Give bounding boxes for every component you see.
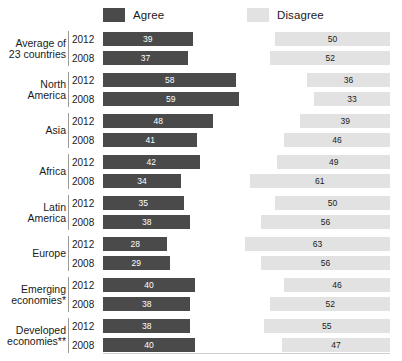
row-year-label: 2012: [72, 194, 98, 213]
row-year-label: 2012: [72, 112, 98, 131]
bar-agree: 48: [103, 114, 213, 128]
row-year-label: 2008: [72, 131, 98, 150]
bar-disagree: 50: [275, 32, 390, 46]
row-year-label: 2008: [72, 295, 98, 314]
row-year-label: 2012: [72, 276, 98, 295]
row-year-label: 2012: [72, 30, 98, 49]
category-label: Africa: [0, 166, 66, 178]
row-year-label: 2008: [72, 254, 98, 273]
category-divider: [68, 113, 69, 148]
category-divider: [68, 236, 69, 271]
bar-agree: 29: [103, 256, 170, 270]
bar-disagree: 36: [307, 73, 390, 87]
bar-agree: 35: [103, 196, 184, 210]
category-divider: [68, 277, 69, 312]
bar-disagree: 52: [270, 297, 390, 311]
bar-disagree: 46: [284, 133, 390, 147]
legend-swatch-disagree-icon: [247, 8, 269, 22]
row-year-label: 2008: [72, 213, 98, 232]
legend-label-agree: Agree: [133, 8, 164, 22]
bar-agree: 38: [103, 297, 190, 311]
bar-agree: 58: [103, 73, 236, 87]
bar-agree: 59: [103, 92, 239, 106]
category-label: North America: [0, 79, 66, 102]
category-divider: [68, 318, 69, 353]
bar-disagree: 55: [264, 319, 391, 333]
bar-disagree: 46: [284, 278, 390, 292]
category-label: Asia: [0, 125, 66, 137]
bar-agree: 28: [103, 237, 167, 251]
bar-agree: 34: [103, 174, 181, 188]
category-divider: [68, 195, 69, 230]
legend-item-disagree: Disagree: [247, 8, 324, 22]
row-year-label: 2008: [72, 336, 98, 355]
bar-disagree: 56: [261, 256, 390, 270]
bar-agree: 40: [103, 338, 195, 352]
bar-agree: 40: [103, 278, 195, 292]
bar-disagree: 56: [261, 215, 390, 229]
legend-label-disagree: Disagree: [277, 8, 324, 22]
bar-disagree: 50: [275, 196, 390, 210]
bar-agree: 41: [103, 133, 197, 147]
bar-agree: 37: [103, 51, 188, 65]
row-year-label: 2012: [72, 153, 98, 172]
bar-disagree: 39: [300, 114, 390, 128]
chart-plot-area: 2012395020083752201258362008593320124839…: [0, 30, 402, 355]
row-year-label: 2012: [72, 235, 98, 254]
bar-disagree: 63: [245, 237, 390, 251]
legend-swatch-agree-icon: [103, 8, 125, 22]
bar-disagree: 47: [282, 338, 390, 352]
category-label: Latin America: [0, 202, 66, 225]
row-year-label: 2012: [72, 71, 98, 90]
row-year-label: 2008: [72, 172, 98, 191]
row-year-label: 2012: [72, 317, 98, 336]
category-divider: [68, 31, 69, 66]
bar-disagree: 61: [250, 174, 390, 188]
category-label: Developed economies**: [0, 325, 66, 348]
bar-agree: 42: [103, 155, 200, 169]
bar-disagree: 49: [277, 155, 390, 169]
category-divider: [68, 154, 69, 189]
category-label: Europe: [0, 248, 66, 260]
bar-agree: 39: [103, 32, 193, 46]
row-year-label: 2008: [72, 49, 98, 68]
bar-disagree: 52: [270, 51, 390, 65]
bar-disagree: 33: [314, 92, 390, 106]
legend-item-agree: Agree: [103, 8, 164, 22]
category-divider: [68, 72, 69, 107]
chart-legend: Agree Disagree: [0, 8, 402, 28]
bar-agree: 38: [103, 319, 190, 333]
chart-baseline: [103, 353, 390, 354]
category-label: Emerging economies*: [0, 284, 66, 307]
bar-agree: 38: [103, 215, 190, 229]
row-year-label: 2008: [72, 90, 98, 109]
category-label: Average of 23 countries: [0, 38, 66, 61]
bar-chart: Agree Disagree 2012395020083752201258362…: [0, 0, 402, 361]
